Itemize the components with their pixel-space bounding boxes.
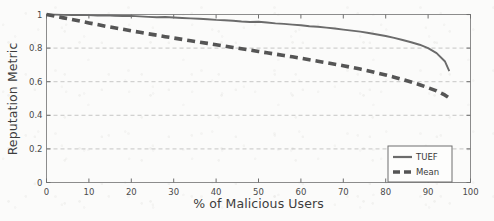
x-tick-label: 10 bbox=[83, 187, 94, 197]
x-tick-label: 90 bbox=[423, 187, 434, 197]
y-axis-label: Reputation Metric bbox=[5, 42, 20, 155]
y-tick-label: 0.8 bbox=[29, 43, 43, 53]
chart-legend[interactable]: TUEFMean bbox=[388, 146, 452, 182]
y-tick-label: 0.4 bbox=[29, 110, 43, 120]
y-tick-label: 0.2 bbox=[29, 144, 43, 154]
legend-label-mean: Mean bbox=[416, 167, 439, 177]
y-tick-label: 1 bbox=[37, 10, 42, 20]
series-line-mean bbox=[47, 15, 450, 99]
data-series-group bbox=[47, 15, 450, 99]
gridlines-group bbox=[47, 48, 471, 149]
x-tick-label: 80 bbox=[380, 187, 391, 197]
legend-label-tuef: TUEF bbox=[415, 152, 438, 162]
y-tick-label: 0 bbox=[37, 178, 42, 188]
x-tick-label: 50 bbox=[253, 187, 264, 197]
x-tick-label: 20 bbox=[126, 187, 137, 197]
x-tick-label: 60 bbox=[295, 187, 306, 197]
x-axis-label: % of Malicious Users bbox=[193, 196, 324, 211]
chart-figure: 010203040506070809010000.20.40.60.81 TUE… bbox=[0, 0, 494, 221]
x-tick-label: 30 bbox=[168, 187, 179, 197]
series-line-tuef bbox=[47, 15, 450, 72]
y-tick-label: 0.6 bbox=[29, 77, 43, 87]
x-tick-label: 40 bbox=[211, 187, 222, 197]
x-tick-label: 0 bbox=[44, 187, 49, 197]
x-tick-label: 100 bbox=[462, 187, 478, 197]
x-tick-label: 70 bbox=[338, 187, 349, 197]
plot-canvas: 010203040506070809010000.20.40.60.81 TUE… bbox=[0, 0, 494, 221]
